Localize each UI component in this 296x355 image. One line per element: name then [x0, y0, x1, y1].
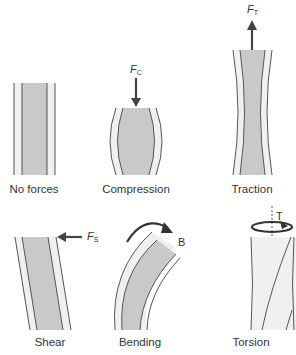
torsion-torque-label: T — [276, 210, 283, 222]
caption-shear: Shear — [35, 336, 66, 348]
forces-diagram — [0, 0, 296, 355]
shear-force-label: FS — [87, 230, 98, 243]
bending-moment-label: B — [178, 236, 185, 248]
caption-torsion: Torsion — [232, 336, 269, 348]
no-forces-shape — [14, 83, 55, 175]
compression-shape — [110, 108, 162, 175]
compression-arrow — [131, 78, 141, 107]
caption-traction: Traction — [231, 183, 272, 195]
shear-arrow — [57, 232, 82, 242]
shear-shape — [15, 237, 71, 330]
traction-force-label: FT — [247, 3, 258, 16]
traction-shape — [233, 50, 272, 175]
caption-no-forces: No forces — [9, 183, 58, 195]
traction-arrow — [247, 20, 257, 50]
compression-force-label: FC — [130, 63, 142, 76]
caption-compression: Compression — [102, 183, 170, 195]
bending-shape — [114, 232, 180, 330]
caption-bending: Bending — [119, 336, 161, 348]
